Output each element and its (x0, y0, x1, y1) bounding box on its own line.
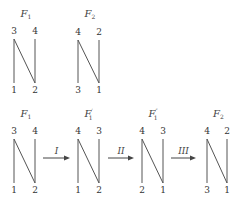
bottom-right-label: 2 (32, 185, 38, 195)
arrow-iii: III (171, 146, 196, 161)
top-right-label: 4 (32, 126, 38, 136)
top-left-label: 3 (11, 126, 17, 136)
diagonal-edge (78, 40, 99, 83)
top-right-label: 4 (32, 26, 38, 36)
top-right-label: 3 (96, 126, 102, 136)
diagram-bottom-F1-double-prime: F″14321 (139, 107, 166, 195)
bottom-right-label: 2 (32, 85, 38, 95)
diagram-title: F″1 (148, 107, 159, 121)
diagram-title: F′1 (84, 107, 94, 121)
arrow-label: III (177, 146, 189, 156)
diagram-bottom-F1: F13412 (11, 108, 38, 195)
diagram-title: F1 (20, 8, 32, 20)
bottom-left-label: 1 (11, 85, 17, 95)
bottom-left-label: 3 (204, 185, 210, 195)
diagonal-edge (142, 139, 163, 183)
diagonal-edge (14, 39, 35, 83)
arrow-ii: II (108, 146, 134, 161)
top-right-label: 2 (96, 27, 102, 37)
diagram-title: F2 (84, 8, 96, 20)
n-shaped-diagrams-group: F13412F24231F13412F′14312F″14321F24231 (11, 8, 230, 195)
arrow-i: I (43, 146, 70, 161)
diagonal-edge (207, 139, 227, 183)
bottom-right-label: 1 (224, 185, 230, 195)
arrow-head-icon (64, 156, 70, 161)
arrow-label: II (116, 146, 125, 156)
arrow-label: I (54, 146, 59, 156)
diagram-bottom-F2: F24231 (204, 108, 230, 195)
bottom-right-label: 2 (96, 185, 102, 195)
diagram-top-F2: F24231 (75, 8, 102, 95)
bottom-right-label: 1 (96, 85, 102, 95)
transformation-arrows-group: IIIIII (43, 146, 196, 161)
arrow-head-icon (190, 156, 196, 161)
diagram-title: F2 (212, 108, 224, 120)
diagram-bottom-F1-prime: F′14312 (75, 107, 102, 195)
arrow-head-icon (128, 156, 134, 161)
bottom-left-label: 2 (139, 185, 145, 195)
diagonal-edge (14, 139, 35, 183)
bottom-left-label: 1 (75, 185, 81, 195)
bottom-right-label: 1 (160, 185, 166, 195)
top-right-label: 3 (160, 126, 166, 136)
top-left-label: 4 (75, 27, 81, 37)
diagram-top-F1: F13412 (11, 8, 38, 95)
bottom-left-label: 1 (11, 185, 17, 195)
top-left-label: 4 (204, 126, 210, 136)
bottom-left-label: 3 (75, 85, 81, 95)
top-right-label: 2 (224, 126, 230, 136)
diagonal-edge (78, 139, 99, 183)
top-left-label: 4 (139, 126, 145, 136)
top-left-label: 3 (11, 26, 17, 36)
diagram-title: F1 (20, 108, 32, 120)
top-left-label: 4 (75, 126, 81, 136)
permutation-diagram-canvas: F13412F24231F13412F′14312F″14321F24231 I… (0, 0, 239, 199)
